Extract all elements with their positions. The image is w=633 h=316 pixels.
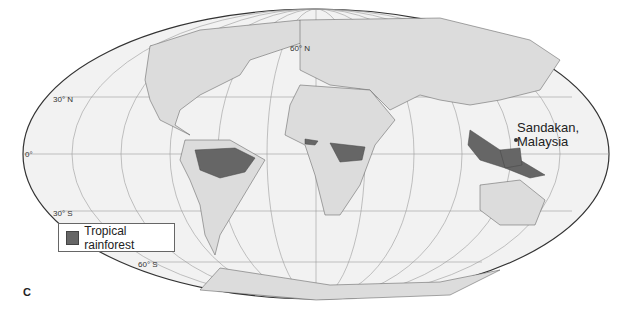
lat-label-30n: 30° N [53,95,73,104]
legend-label-rainforest: Tropical rainforest [84,224,174,252]
place-label-line-2: Malaysia [517,135,579,149]
world-map [0,0,633,316]
lat-label-60s: 60° S [138,260,158,269]
place-label-line-1: Sandakan, [517,121,579,135]
place-label-sandakan: Sandakan, Malaysia [517,121,579,149]
panel-label: C [23,286,31,298]
legend-swatch-rainforest [66,231,79,245]
lat-label-0: 0° [25,150,33,159]
lat-label-60n: 60° N [290,44,310,53]
lat-label-30s: 30° S [53,209,73,218]
legend: Tropical rainforest [58,223,175,252]
